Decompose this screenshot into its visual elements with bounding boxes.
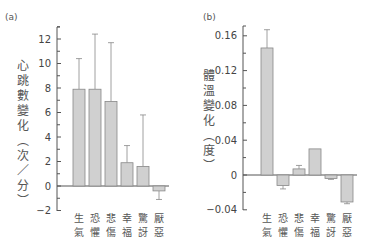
category-label: 厭 (154, 213, 164, 224)
category-label: 悲 (106, 212, 116, 224)
category-label: 懼 (90, 227, 100, 238)
category-label: 幸 (310, 213, 320, 224)
y-tick-label: 0.04 (215, 135, 237, 146)
y-tick-label: 4 (45, 132, 51, 143)
category-label: 驚 (326, 212, 336, 224)
category-label: 悲 (294, 212, 304, 224)
bar-幸福 (309, 149, 321, 175)
y-axis-label: 數 (17, 89, 29, 103)
y-axis-label: 化 (203, 114, 215, 128)
chart-panel-b: (b)−0.0400.040.080.120.16生氣恐懼悲傷幸福驚訝厭惡體溫變… (203, 12, 357, 238)
y-axis-label: 次 (17, 149, 29, 163)
y-tick-label: 12 (38, 34, 51, 45)
bar-幸福 (121, 163, 133, 186)
category-label: 惡 (342, 227, 352, 238)
y-tick-label: 2 (45, 156, 51, 167)
y-axis-label: 變 (17, 103, 29, 118)
category-label: 恐 (278, 213, 288, 224)
category-label: 驚 (138, 212, 148, 224)
category-label: 福 (310, 226, 320, 238)
bar-悲傷 (105, 101, 117, 186)
category-label: 訝 (138, 226, 148, 238)
category-label: 厭 (342, 213, 352, 224)
bar-驚訝 (325, 175, 337, 178)
bar-生氣 (261, 48, 273, 175)
y-axis-label: 度 (203, 143, 215, 158)
panel-label: (a) (5, 12, 18, 22)
bar-厭惡 (153, 186, 165, 191)
y-tick-label: 0 (45, 181, 51, 192)
bar-生氣 (73, 89, 85, 186)
category-label: 惡 (154, 227, 164, 238)
category-label: 氣 (74, 226, 84, 238)
y-axis-label: 變 (203, 98, 215, 113)
category-label: 傷 (106, 226, 116, 238)
y-tick-label: 0.16 (215, 30, 237, 41)
category-label: 生 (74, 212, 84, 224)
y-axis-label: ︵ (203, 129, 215, 143)
y-axis-label: 心 (17, 59, 29, 73)
y-tick-label: 8 (45, 83, 51, 94)
y-axis-label: 體 (203, 69, 215, 83)
bar-驚訝 (137, 166, 149, 186)
category-label: 生 (262, 212, 272, 224)
bar-恐懼 (277, 175, 289, 185)
y-axis-label: 分 (17, 179, 29, 193)
category-label: 懼 (278, 227, 288, 238)
y-axis-label: 跳 (17, 74, 29, 88)
y-axis-label: ︶ (17, 194, 29, 208)
y-tick-label: −0.04 (206, 204, 237, 215)
y-tick-label: 0.12 (215, 65, 237, 76)
category-label: 訝 (326, 226, 336, 238)
y-axis-label: 化 (17, 119, 29, 133)
bar-悲傷 (293, 169, 305, 175)
panel-label: (b) (203, 12, 216, 22)
category-label: 幸 (122, 213, 132, 224)
y-tick-label: 6 (45, 107, 51, 118)
category-label: 氣 (262, 226, 272, 238)
y-axis-label: ／ (17, 164, 29, 178)
y-axis-label: ︶ (203, 159, 215, 173)
y-tick-label: 10 (38, 58, 51, 69)
y-axis-label: ︵ (17, 134, 29, 148)
y-tick-label: −2 (36, 205, 51, 216)
y-tick-label: 0 (231, 170, 237, 181)
category-label: 恐 (90, 213, 100, 224)
y-tick-label: 0.08 (215, 100, 237, 111)
chart-canvas: (a)−2024681012生氣恐懼悲傷幸福驚訝厭惡心跳數變化︵次／分︶(b)−… (0, 0, 366, 252)
bar-恐懼 (89, 89, 101, 186)
category-label: 福 (122, 226, 132, 238)
category-label: 傷 (294, 226, 304, 238)
bar-厭惡 (341, 175, 353, 202)
y-axis-label: 溫 (203, 84, 215, 98)
chart-panel-a: (a)−2024681012生氣恐懼悲傷幸福驚訝厭惡心跳數變化︵次／分︶ (5, 12, 169, 238)
